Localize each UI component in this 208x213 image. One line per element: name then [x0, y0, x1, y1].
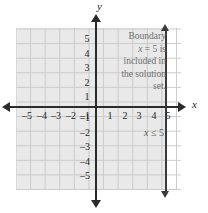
x-axis-right-arrow-icon — [178, 102, 186, 112]
coordinate-plane-figure: y x –5–4–3–2–112345 54321–1–2–3–4–5 Boun… — [0, 0, 208, 213]
y-tick-label: 3 — [79, 62, 95, 73]
y-axis-down-arrow-icon — [91, 200, 101, 208]
y-axis-up-arrow-icon — [91, 14, 101, 22]
x-axis — [8, 106, 180, 108]
boundary-down-arrow-icon — [161, 191, 169, 198]
y-tick-label: –5 — [76, 170, 94, 181]
note-line-2: x = 5 is — [100, 43, 166, 56]
y-tick-label: –2 — [76, 127, 94, 138]
y-tick-label: 5 — [79, 33, 95, 44]
x-tick-label: 3 — [131, 110, 147, 121]
note-line-4: the solution — [100, 68, 166, 81]
boundary-note: Boundary x = 5 is included in the soluti… — [100, 30, 166, 93]
y-axis — [95, 20, 97, 206]
y-tick-label: –3 — [76, 141, 94, 152]
y-tick-label: 1 — [79, 91, 95, 102]
note-line-1: Boundary — [100, 30, 166, 43]
x-tick-label: 1 — [102, 110, 118, 121]
y-axis-label: y — [97, 0, 102, 12]
x-axis-left-arrow-icon — [2, 102, 10, 112]
x-axis-label: x — [192, 98, 197, 110]
y-tick-label: 2 — [79, 77, 95, 88]
note-line-3: included in — [100, 55, 166, 68]
y-tick-label: –4 — [76, 156, 94, 167]
note-line-5: set. — [100, 80, 166, 93]
y-tick-label: –1 — [76, 112, 94, 123]
inequality-label: x ≤ 5 — [106, 127, 164, 138]
y-tick-label: 4 — [79, 48, 95, 59]
x-tick-label: 5 — [160, 110, 176, 121]
